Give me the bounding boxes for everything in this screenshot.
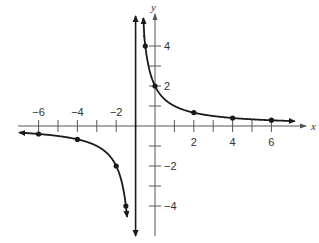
data-point [269,118,274,123]
data-point [191,110,196,115]
data-point [36,131,41,136]
x-tick-label: 2 [191,136,197,148]
data-point [123,203,128,208]
hyperbola-chart: xy−6−4−224642−2−4 [0,0,319,243]
data-point [143,43,148,48]
data-point [75,137,80,142]
y-tick-label: −4 [164,200,177,212]
right-branch-up-arrow [143,18,144,37]
data-point [230,115,235,120]
curve-branches [19,18,294,217]
x-tick-label: −2 [110,106,123,118]
y-tick-label: 4 [164,40,170,52]
data-point [114,163,119,168]
x-tick-label: −6 [32,106,45,118]
y-tick-label: 2 [164,80,170,92]
x-tick-label: 4 [230,136,236,148]
x-tick-label: 6 [268,136,274,148]
y-tick-label: −2 [164,160,177,172]
x-axis-label: x [310,120,316,132]
x-tick-label: −4 [71,106,84,118]
y-axis-label: y [150,1,156,13]
left-branch-curve [21,133,127,217]
data-point [152,83,157,88]
axes [18,14,306,236]
